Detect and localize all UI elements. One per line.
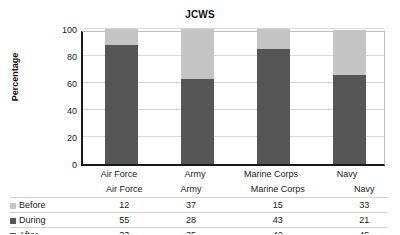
table-cell: 55 <box>82 212 167 227</box>
legend-label: Before <box>19 198 46 212</box>
table-cell: 15 <box>215 197 340 212</box>
bar-segment-before[interactable] <box>181 29 214 79</box>
bar-segment-after[interactable] <box>181 117 214 164</box>
table-cell: 28 <box>167 212 216 227</box>
y-tick-label: 20 <box>51 134 77 143</box>
bar-stack[interactable] <box>181 32 214 164</box>
legend-swatch-icon <box>10 218 16 224</box>
table-cell: 33 <box>340 197 388 212</box>
bar-stack[interactable] <box>333 32 366 164</box>
x-tick-label: Army <box>157 168 233 180</box>
legend-swatch-icon <box>10 203 16 209</box>
table-column-header: Navy <box>340 182 388 197</box>
legend-label: During <box>19 213 46 227</box>
table-column-header: Army <box>167 182 216 197</box>
y-tick-label: 80 <box>51 53 77 62</box>
table-cell: 45 <box>340 227 388 234</box>
data-table: Air ForceArmyMarine CorpsNavyBefore12371… <box>10 182 388 234</box>
table-row: Before12371533 <box>10 197 388 212</box>
bar-stack[interactable] <box>105 32 138 164</box>
bar-segment-during[interactable] <box>181 79 214 117</box>
chart-title: JCWS <box>0 9 400 20</box>
bar-segment-before[interactable] <box>257 29 290 49</box>
bar-segment-during[interactable] <box>105 45 138 119</box>
plot-area <box>81 31 385 166</box>
bar-segment-before[interactable] <box>105 29 138 45</box>
y-axis-title: Percentage <box>10 37 20 117</box>
y-tick-label: 60 <box>51 80 77 89</box>
table-cell: 33 <box>82 227 167 234</box>
table-corner-cell <box>10 182 82 197</box>
y-tick-label: 100 <box>51 26 77 35</box>
x-tick-label: Marine Corps <box>233 168 309 180</box>
table-row: During55284321 <box>10 212 388 227</box>
legend-entry[interactable]: During <box>10 212 82 227</box>
table-cell: 43 <box>215 212 340 227</box>
bar-segment-during[interactable] <box>257 49 290 107</box>
legend-entry[interactable]: After <box>10 227 82 234</box>
x-axis-tick-labels: Air ForceArmyMarine CorpsNavy <box>81 168 385 182</box>
y-tick-label: 0 <box>51 161 77 170</box>
table-column-header: Air Force <box>82 182 167 197</box>
y-tick-label: 40 <box>51 107 77 116</box>
bar-stack[interactable] <box>257 32 290 164</box>
x-tick-label: Air Force <box>81 168 157 180</box>
table-cell: 35 <box>167 227 216 234</box>
table-row: After33354245 <box>10 227 388 234</box>
x-tick-label: Navy <box>309 168 385 180</box>
table-cell: 21 <box>340 212 388 227</box>
bar-segment-after[interactable] <box>105 119 138 164</box>
bar-segment-after[interactable] <box>257 107 290 164</box>
table-cell: 12 <box>82 197 167 212</box>
table-header-row: Air ForceArmyMarine CorpsNavy <box>10 182 388 197</box>
legend-label: After <box>19 228 38 235</box>
table-cell: 37 <box>167 197 216 212</box>
bar-segment-before[interactable] <box>333 30 366 75</box>
table-column-header: Marine Corps <box>215 182 340 197</box>
y-axis-tick-labels: 020406080100 <box>49 31 77 166</box>
bar-segment-during[interactable] <box>333 75 366 103</box>
legend-entry[interactable]: Before <box>10 197 82 212</box>
bar-segment-after[interactable] <box>333 103 366 164</box>
legend-swatch-icon <box>10 233 16 235</box>
chart-container: JCWS Percentage 020406080100 Air ForceAr… <box>0 0 400 234</box>
table-cell: 42 <box>215 227 340 234</box>
